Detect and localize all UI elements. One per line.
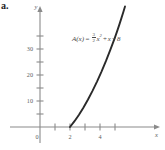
x-tick-label-0: 0: [35, 133, 38, 140]
formula-function-name: A(x): [72, 35, 84, 43]
formula-fraction: 32: [92, 32, 97, 43]
x-axis-label: x: [154, 131, 158, 138]
formula-equals: =: [84, 35, 91, 43]
y-axis-label: y: [34, 3, 38, 10]
function-formula: A(x)=32x2+x−8: [72, 32, 120, 43]
x-axis-arrow-icon: [154, 124, 160, 129]
x-tick-label-2: 2: [68, 133, 71, 140]
y-axis-arrow-icon: [37, 6, 42, 12]
formula-constant: 8: [117, 35, 121, 43]
graph-plot: 30 20 10 0 2 4 y x: [0, 0, 165, 150]
function-curve: [70, 7, 125, 128]
y-tick-label-30: 30: [27, 45, 33, 52]
y-tick-label-20: 20: [27, 71, 33, 78]
y-tick-label-10: 10: [27, 97, 33, 104]
x-tick-label-4: 4: [98, 133, 101, 140]
figure-container: a. 30 20 10 0 2 4 y x: [0, 0, 165, 150]
formula-denominator: 2: [92, 37, 97, 43]
